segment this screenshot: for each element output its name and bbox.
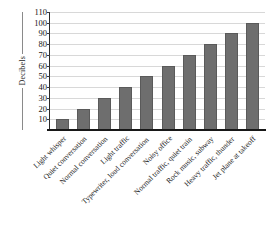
bar bbox=[204, 44, 217, 130]
bar bbox=[246, 23, 259, 130]
y-axis-tick-label: 80 bbox=[39, 40, 48, 48]
y-axis-tick-label: 90 bbox=[39, 29, 48, 37]
decibels-bar-chart: Decibels 102030405060708090100110 Light … bbox=[0, 0, 275, 240]
plot-area bbox=[49, 12, 265, 130]
bar bbox=[225, 33, 238, 130]
y-axis-tick-label: 30 bbox=[39, 94, 48, 102]
bar bbox=[77, 109, 90, 130]
bar bbox=[183, 55, 196, 130]
y-axis-title-rule-bottom bbox=[22, 88, 23, 130]
y-axis-tick-label: 50 bbox=[39, 72, 48, 80]
y-axis-tick-labels: 102030405060708090100110 bbox=[28, 12, 48, 130]
bar bbox=[98, 98, 111, 130]
y-axis-title-rule-top bbox=[22, 12, 23, 54]
y-axis-tick-label: 40 bbox=[39, 83, 48, 91]
y-axis-title: Decibels bbox=[18, 54, 27, 88]
y-axis-tick-label: 70 bbox=[39, 51, 48, 59]
x-axis-line bbox=[47, 129, 266, 131]
x-axis-category-labels: Light whisperQuiet conversationNormal co… bbox=[49, 132, 265, 238]
y-axis-tick-label: 100 bbox=[34, 19, 47, 27]
bar bbox=[162, 66, 175, 130]
y-axis-tick-label: 20 bbox=[39, 105, 48, 113]
bar-series bbox=[50, 12, 265, 130]
y-axis-tick-label: 110 bbox=[35, 8, 47, 16]
y-axis-tick-label: 10 bbox=[39, 115, 48, 123]
y-axis-tick-label: 60 bbox=[39, 62, 48, 70]
bar bbox=[119, 87, 132, 130]
bar bbox=[140, 76, 153, 130]
